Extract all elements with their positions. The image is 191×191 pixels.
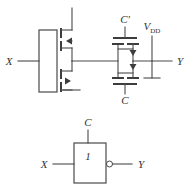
symbol-output-label: Y [138,158,146,170]
schematic-input-label: X [5,55,14,67]
symbol-body-box [74,143,106,183]
schematic-group: X [5,8,185,106]
symbol-input-label: X [40,158,49,170]
pmos-left-bulk-arrow [66,38,72,45]
control-c-label: C [121,94,129,106]
left-inverter-gate-bar [39,30,57,92]
symbol-body-label: 1 [85,150,91,162]
circuit-figure: X [0,0,191,191]
nmos-left-bulk-arrow [65,78,71,85]
circuit-svg: X [0,0,191,191]
pmos-pass-bulk-arrow [130,50,137,56]
vdd-label: VDD [144,20,161,35]
logic-symbol-group: 1 C X Y [40,116,146,183]
symbol-control-label: C [84,116,92,128]
symbol-inversion-bubble [107,161,113,167]
nmos-pass-bulk-arrow [130,64,137,70]
control-cprime-label: C′ [120,13,130,25]
schematic-output-label: Y [177,55,185,67]
